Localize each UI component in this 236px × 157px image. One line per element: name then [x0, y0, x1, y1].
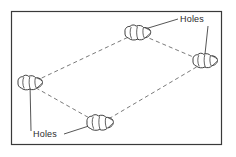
figure-border [12, 12, 222, 145]
label-holes-bottom-left: Holes [33, 129, 57, 139]
holes-diagram: Holes Holes [0, 0, 236, 157]
figure-container: Holes Holes [0, 0, 236, 157]
label-holes-top-right: Holes [180, 14, 204, 24]
